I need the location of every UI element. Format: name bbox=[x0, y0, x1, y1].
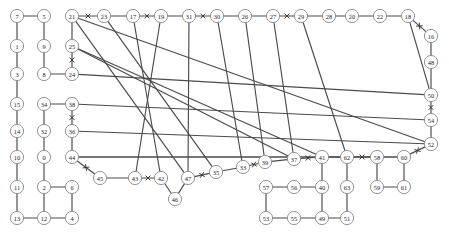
graph-node[interactable]: 35 bbox=[209, 165, 222, 178]
graph-node[interactable]: 39 bbox=[258, 155, 271, 168]
graph-node[interactable]: 9 bbox=[37, 39, 50, 52]
graph-node[interactable]: 33 bbox=[236, 160, 249, 173]
graph-node[interactable]: 4 bbox=[65, 211, 78, 224]
graph-node[interactable]: 14 bbox=[10, 124, 23, 137]
node-label: 8 bbox=[42, 71, 45, 78]
graph-edge bbox=[303, 22, 345, 150]
graph-node[interactable]: 8 bbox=[37, 67, 50, 80]
graph-node[interactable]: 45 bbox=[93, 171, 106, 184]
node-label: 20 bbox=[349, 13, 355, 20]
graph-node[interactable]: 16 bbox=[424, 29, 437, 42]
graph-node[interactable]: 20 bbox=[345, 9, 358, 22]
graph-node[interactable]: 47 bbox=[181, 171, 194, 184]
graph-node[interactable]: 57 bbox=[259, 180, 272, 193]
graph-node[interactable]: 30 bbox=[210, 9, 223, 22]
graph-node[interactable]: 13 bbox=[10, 211, 23, 224]
graph-node[interactable]: 23 bbox=[97, 9, 110, 22]
graph-edge bbox=[108, 21, 212, 166]
graph-node[interactable]: 34 bbox=[37, 97, 50, 110]
graph-node[interactable]: 46 bbox=[168, 192, 181, 205]
graph-node[interactable]: 5 bbox=[37, 9, 50, 22]
graph-node[interactable]: 55 bbox=[287, 211, 300, 224]
graph-edge bbox=[218, 23, 242, 161]
node-label: 21 bbox=[69, 13, 75, 20]
graph-edge bbox=[188, 23, 189, 172]
graph-node[interactable]: 28 bbox=[322, 9, 335, 22]
node-label: 25 bbox=[69, 43, 75, 50]
graph-node[interactable]: 52 bbox=[424, 137, 437, 150]
graph-node[interactable]: 22 bbox=[373, 9, 386, 22]
node-label: 5 bbox=[42, 13, 45, 20]
graph-node[interactable]: 10 bbox=[10, 150, 23, 163]
graph-node[interactable]: 38 bbox=[65, 97, 78, 110]
graph-node[interactable]: 29 bbox=[294, 9, 307, 22]
node-label: 54 bbox=[428, 117, 435, 124]
graph-node[interactable]: 0 bbox=[37, 150, 50, 163]
graph-node[interactable]: 32 bbox=[37, 124, 50, 137]
graph-node[interactable]: 1 bbox=[10, 39, 23, 52]
node-label: 10 bbox=[14, 154, 20, 161]
node-label: 9 bbox=[42, 43, 45, 50]
graph-node[interactable]: 54 bbox=[424, 113, 437, 126]
graph-edge bbox=[274, 23, 293, 153]
graph-node[interactable]: 12 bbox=[37, 211, 50, 224]
graph-node[interactable]: 11 bbox=[10, 180, 23, 193]
graph-node[interactable]: 41 bbox=[315, 150, 328, 163]
graph-node[interactable]: 58 bbox=[370, 150, 383, 163]
graph-node[interactable]: 62 bbox=[340, 150, 353, 163]
node-label: 56 bbox=[291, 184, 297, 191]
graph-node[interactable]: 43 bbox=[128, 171, 141, 184]
node-label: 22 bbox=[377, 13, 383, 20]
graph-node[interactable]: 56 bbox=[287, 180, 300, 193]
graph-node[interactable]: 50 bbox=[424, 88, 437, 101]
graph-node[interactable]: 49 bbox=[315, 211, 328, 224]
node-label: 1 bbox=[15, 43, 18, 50]
node-label: 0 bbox=[42, 154, 45, 161]
graph-node[interactable]: 37 bbox=[287, 152, 300, 165]
node-label: 50 bbox=[428, 92, 434, 99]
cross-stroke bbox=[83, 167, 89, 168]
graph-node[interactable]: 15 bbox=[10, 97, 23, 110]
node-label: 14 bbox=[14, 128, 21, 135]
node-label: 34 bbox=[41, 101, 48, 108]
graph-node[interactable]: 2 bbox=[37, 180, 50, 193]
node-label: 58 bbox=[374, 154, 380, 161]
graph-node[interactable]: 63 bbox=[340, 180, 353, 193]
graph-node[interactable]: 3 bbox=[10, 67, 23, 80]
node-label: 63 bbox=[344, 184, 350, 191]
graph-diagram: 7519381514101113343202126421252438364423… bbox=[0, 0, 449, 236]
node-label: 62 bbox=[344, 154, 350, 161]
graph-node[interactable]: 19 bbox=[154, 9, 167, 22]
graph-node[interactable]: 7 bbox=[10, 9, 23, 22]
graph-node[interactable]: 6 bbox=[65, 180, 78, 193]
graph-node[interactable]: 27 bbox=[266, 9, 279, 22]
graph-node[interactable]: 17 bbox=[126, 9, 139, 22]
graph-node[interactable]: 48 bbox=[424, 55, 437, 68]
node-label: 39 bbox=[262, 159, 268, 166]
graph-node[interactable]: 26 bbox=[238, 9, 251, 22]
graph-node[interactable]: 60 bbox=[397, 150, 410, 163]
graph-edge bbox=[272, 160, 288, 162]
graph-edge bbox=[178, 184, 184, 194]
graph-node[interactable]: 40 bbox=[315, 180, 328, 193]
graph-node[interactable]: 36 bbox=[65, 124, 78, 137]
graph-node[interactable]: 53 bbox=[259, 211, 272, 224]
graph-node[interactable]: 59 bbox=[370, 180, 383, 193]
graph-canvas: 7519381514101113343202126421252438364423… bbox=[0, 0, 449, 236]
graph-node[interactable]: 31 bbox=[182, 9, 195, 22]
graph-node[interactable]: 42 bbox=[154, 171, 167, 184]
node-label: 52 bbox=[428, 141, 434, 148]
graph-node[interactable]: 21 bbox=[65, 9, 78, 22]
node-label: 46 bbox=[172, 196, 178, 203]
graph-node[interactable]: 51 bbox=[340, 211, 353, 224]
graph-node[interactable]: 24 bbox=[65, 67, 78, 80]
node-label: 42 bbox=[158, 175, 164, 182]
graph-node[interactable]: 18 bbox=[401, 9, 414, 22]
graph-edge bbox=[79, 131, 425, 144]
node-label: 15 bbox=[14, 101, 20, 108]
graph-node[interactable]: 61 bbox=[397, 180, 410, 193]
graph-node[interactable]: 25 bbox=[65, 39, 78, 52]
graph-node[interactable]: 44 bbox=[65, 150, 78, 163]
graph-edge bbox=[78, 18, 425, 142]
node-label: 41 bbox=[319, 154, 325, 161]
